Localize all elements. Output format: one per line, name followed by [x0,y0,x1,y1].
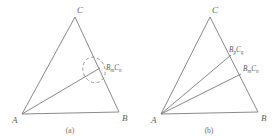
triangle-side-ac [161,17,210,114]
triangle-side-ac [22,17,75,114]
cevian-a-to-bmcn [22,68,100,114]
geometry-figure: C A B BmCn (a) C A B [0,0,278,136]
vertex-label-b: B [122,113,128,123]
point-label-bmcn-n: n [256,68,259,74]
point-label-bpcq: BpCq [229,46,244,55]
point-label-bmcn-n: n [119,67,122,73]
point-label-bpcq-q: q [241,49,244,55]
vertex-label-a: A [150,115,157,125]
vertex-label-b: B [261,113,267,123]
vertex-label-a: A [11,115,18,125]
point-label-bmcn: BmCn [243,65,259,74]
panel-b-caption: (b) [205,126,214,135]
triangle-side-ab [161,112,258,114]
vertex-label-c: C [212,5,219,15]
triangle-side-ab [22,112,119,114]
figure-panel-a: C A B BmCn (a) [0,0,139,136]
vertex-label-c: C [77,5,84,15]
point-label-bmcn: BmCn [106,64,122,73]
panel-b-drawing: C A B BpCq BmCn (b) [139,0,278,136]
panel-a-drawing: C A B BmCn (a) [0,0,139,136]
triangle-side-cb [75,17,119,112]
panel-a-caption: (a) [66,126,75,135]
figure-panel-b: C A B BpCq BmCn (b) [139,0,278,136]
